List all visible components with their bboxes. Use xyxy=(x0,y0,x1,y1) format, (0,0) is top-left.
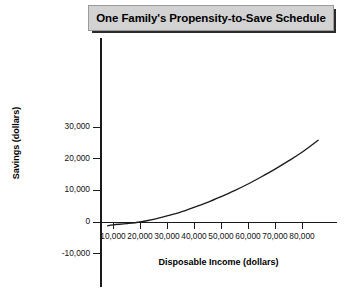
x-tick xyxy=(140,222,141,229)
x-axis-title: Disposable Income (dollars) xyxy=(100,257,337,267)
y-tick xyxy=(93,222,100,223)
x-tick-label: 30,000 xyxy=(154,231,179,241)
x-tick-label: 50,000 xyxy=(208,231,233,241)
x-tick-label: 20,000 xyxy=(127,231,152,241)
y-tick-label: 20,000 xyxy=(28,153,90,163)
savings-curve-path xyxy=(108,140,319,226)
y-tick-label: 0 xyxy=(28,216,90,226)
y-axis-line xyxy=(100,38,102,287)
y-tick-label: 10,000 xyxy=(28,184,90,194)
x-tick-label: 70,000 xyxy=(262,231,287,241)
x-tick-label: 40,000 xyxy=(181,231,206,241)
x-tick xyxy=(113,222,114,229)
y-tick xyxy=(93,127,100,128)
x-tick-label: 60,000 xyxy=(235,231,260,241)
x-tick xyxy=(221,222,222,229)
y-axis-tick-labels: 30,00020,00010,0000-10,000 xyxy=(26,0,90,301)
x-tick xyxy=(194,222,195,229)
x-tick xyxy=(167,222,168,229)
y-tick xyxy=(93,253,100,254)
chart-container: One Family's Propensity-to-Save Schedule… xyxy=(0,0,345,301)
chart-title-box: One Family's Propensity-to-Save Schedule xyxy=(88,5,334,31)
chart-title: One Family's Propensity-to-Save Schedule xyxy=(96,12,325,24)
y-tick xyxy=(93,190,100,191)
y-axis-title: Savings (dollars) xyxy=(11,83,21,203)
x-tick xyxy=(275,222,276,229)
x-tick xyxy=(302,222,303,229)
x-tick xyxy=(248,222,249,229)
y-tick xyxy=(93,158,100,159)
x-tick-label: 10,000 xyxy=(100,231,125,241)
y-tick-label: -10,000 xyxy=(28,248,90,258)
x-tick-label: 80,000 xyxy=(289,231,314,241)
y-tick-label: 30,000 xyxy=(28,121,90,131)
